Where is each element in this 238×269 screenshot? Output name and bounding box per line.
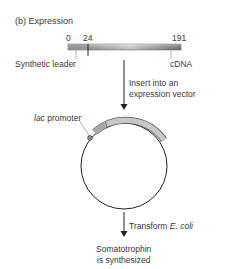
promoter-text: promoter	[45, 113, 81, 123]
inserted-gene-arc	[95, 120, 165, 140]
lac-italic: lac	[34, 113, 45, 123]
transform-text: Transform	[129, 221, 170, 231]
cdna-label: cDNA	[170, 59, 192, 69]
insert-step-line1: Insert into an	[129, 78, 178, 88]
synthetic-leader-label: Synthetic leader	[15, 59, 76, 69]
diagram-graphics	[0, 0, 238, 269]
arrow-insert	[121, 60, 128, 110]
transform-step-label: Transform E. coli	[129, 221, 193, 231]
gene-bar	[68, 44, 181, 50]
arrow-transform	[121, 212, 128, 237]
tick-0: 0	[66, 33, 71, 43]
ecoli-italic: E. coli	[170, 221, 193, 231]
result-line2: is synthesized	[97, 255, 150, 265]
lac-promoter-dot	[88, 136, 93, 141]
plasmid-circle	[81, 123, 167, 209]
lac-promoter-label: lac promoter	[34, 113, 81, 123]
panel-title: (b) Expression	[15, 16, 73, 26]
tick-24: 24	[83, 33, 92, 43]
insert-step-line2: expression vector	[129, 89, 196, 99]
tick-191: 191	[172, 33, 186, 43]
result-line1: Somatotrophin	[96, 244, 151, 254]
